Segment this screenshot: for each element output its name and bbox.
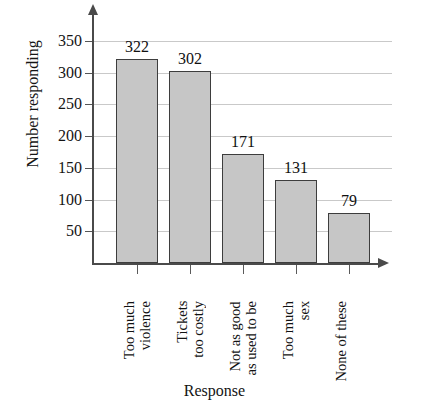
bar — [169, 71, 211, 263]
x-category-label: Too muchviolence — [121, 301, 153, 359]
y-axis-arrow-icon — [88, 4, 98, 15]
bar — [275, 180, 317, 263]
x-tick-mark — [190, 265, 191, 274]
bar — [116, 59, 158, 263]
bar-value-label: 322 — [125, 39, 149, 55]
x-tick-mark — [137, 265, 138, 274]
x-tick-mark — [243, 265, 244, 274]
chart-figure: with Movies? Number responding 501001502… — [0, 0, 429, 415]
bar — [222, 154, 264, 263]
bar-value-label: 302 — [178, 51, 202, 67]
x-axis-arrow-icon — [378, 258, 389, 268]
y-axis-line — [92, 13, 94, 263]
bar — [328, 213, 370, 263]
bar-value-label: 171 — [231, 134, 255, 150]
bar-value-label: 79 — [341, 193, 357, 209]
y-tick-label: 300 — [58, 65, 82, 81]
y-tick-label: 350 — [58, 33, 82, 49]
x-category-label: Too muchsex — [280, 301, 312, 359]
chart-title: with Movies? — [0, 0, 429, 3]
bar-value-label: 131 — [284, 160, 308, 176]
plot-area: 50100150200250300350 32230217113179 Too … — [92, 25, 392, 263]
y-axis-title: Number responding — [24, 9, 42, 199]
x-tick-mark — [349, 265, 350, 274]
y-tick-label: 150 — [58, 160, 82, 176]
x-category-label: None of these — [333, 301, 349, 382]
y-tick-label: 50 — [66, 223, 82, 239]
x-category-label: Ticketstoo costly — [174, 301, 206, 358]
x-category-label: Not as goodas used to be — [227, 301, 259, 376]
y-tick-label: 100 — [58, 192, 82, 208]
y-tick-label: 200 — [58, 128, 82, 144]
x-axis-title: Response — [0, 382, 429, 400]
y-tick-label: 250 — [58, 96, 82, 112]
x-axis-line — [92, 263, 380, 265]
x-tick-mark — [296, 265, 297, 274]
